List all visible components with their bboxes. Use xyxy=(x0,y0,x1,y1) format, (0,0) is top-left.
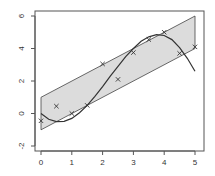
y-tick-label: 0 xyxy=(17,111,26,116)
y-tick-label: 6 xyxy=(17,13,26,18)
y-tick-label: -2 xyxy=(17,142,26,150)
y-axis: -20246 xyxy=(17,13,35,149)
x-tick-label: 2 xyxy=(100,158,105,167)
x-tick-label: 3 xyxy=(131,158,136,167)
y-tick-label: 4 xyxy=(17,46,26,51)
x-tick-label: 1 xyxy=(70,158,75,167)
chart: 012345 -20246 xyxy=(0,0,215,176)
prediction-band xyxy=(41,16,195,130)
x-tick-label: 0 xyxy=(39,158,44,167)
x-tick-label: 4 xyxy=(162,158,167,167)
x-tick-label: 5 xyxy=(193,158,198,167)
x-axis: 012345 xyxy=(39,151,198,167)
band-polygon xyxy=(41,16,195,130)
y-tick-label: 2 xyxy=(17,78,26,83)
